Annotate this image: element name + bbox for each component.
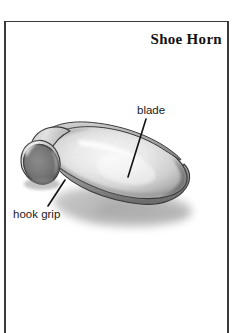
illustration-page: Shoe Horn	[0, 0, 236, 333]
callout-label-hook-grip: hook grip	[13, 208, 60, 220]
callout-label-blade: blade	[137, 104, 165, 116]
shoe-horn-illustration	[0, 0, 236, 333]
hook-grip-contact-shadow	[24, 178, 60, 190]
